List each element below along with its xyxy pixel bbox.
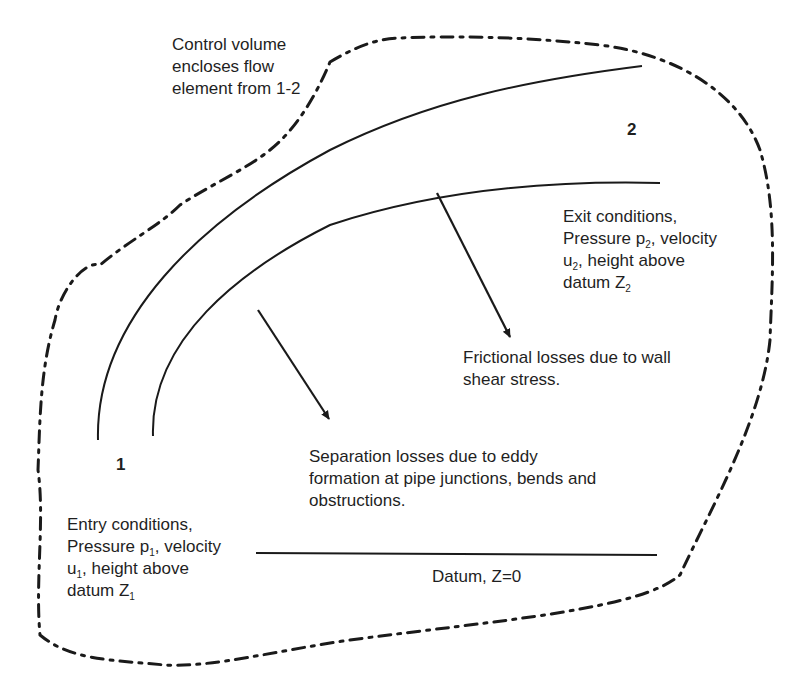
frictional-losses-label: Frictional losses due to wall shear stre… <box>463 347 671 391</box>
station-1-label: 1 <box>116 455 125 475</box>
station-2-label: 2 <box>627 120 636 140</box>
separation-arrow <box>258 310 329 419</box>
datum-label: Datum, Z=0 <box>432 566 521 588</box>
control-volume-label: Control volume encloses flow element fro… <box>172 34 301 100</box>
separation-losses-label: Separation losses due to eddy formation … <box>309 446 596 512</box>
friction-arrow <box>437 193 510 337</box>
exit-conditions-label: Exit conditions, Pressure p2, velocity u… <box>563 206 717 294</box>
entry-conditions-label: Entry conditions, Pressure p1, velocity … <box>67 514 221 602</box>
datum-line <box>256 553 657 555</box>
